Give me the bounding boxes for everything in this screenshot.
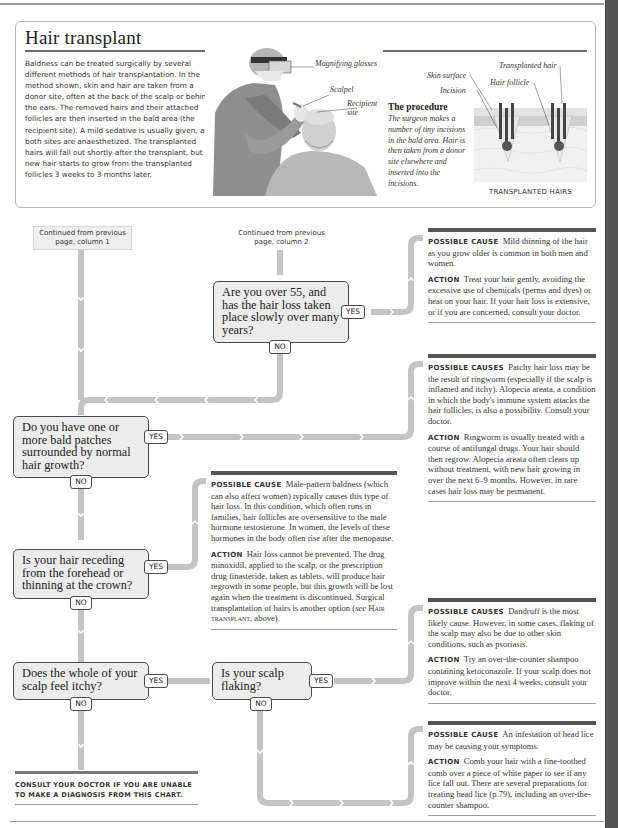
no-tag: NO <box>70 697 92 711</box>
yes-tag: YES <box>341 305 365 319</box>
continued-from-column-2: Continued from previous page, column 2 <box>232 226 331 250</box>
yes-tag: YES <box>144 430 168 444</box>
action-label: Action <box>428 758 460 766</box>
action-label: Action <box>428 434 460 442</box>
answer-patchy-loss: Possible causes Patchy hair loss may be … <box>428 354 596 502</box>
page-top-rule <box>0 3 604 5</box>
page-side-tab <box>605 0 618 828</box>
yes-tag: YES <box>309 674 333 688</box>
consult-text: Consult your doctor if you are unable to… <box>15 780 198 800</box>
page-bottom-rule <box>10 821 604 822</box>
answer-head-lice: Possible cause An infestation of head li… <box>428 721 596 816</box>
question-scalp-flaking: Is your scalp flaking? <box>212 662 312 700</box>
label-scalpel: Scalpel <box>330 85 354 94</box>
action-label: Action <box>428 276 460 284</box>
action-label: Action <box>428 656 460 664</box>
cause-label: Possible causes <box>428 364 504 372</box>
question-itchy-scalp: Does the whole of your scalp feel itchy? <box>13 662 149 700</box>
see-reference: see <box>355 603 366 613</box>
answer-mild-thinning: Possible cause Mild thinning of the hair… <box>428 228 596 323</box>
cause-label: Possible causes <box>428 608 504 616</box>
procedure-title: The procedure <box>388 102 448 112</box>
label-recipient-site: Recipient site <box>347 99 385 117</box>
cause-label: Possible cause <box>211 481 282 489</box>
yes-tag: YES <box>144 560 168 574</box>
diagram-caption: TRANSPLANTED HAIRS <box>474 188 587 196</box>
continued-from-column-1: Continued from previous page, column 1 <box>33 226 132 250</box>
hair-transplant-body: Baldness can be treated surgically by se… <box>25 58 215 180</box>
transplanted-hairs-diagram <box>474 100 587 182</box>
consult-doctor-note: Consult your doctor if you are unable to… <box>15 771 198 805</box>
cause-label: Possible cause <box>428 238 499 246</box>
no-tag: NO <box>70 596 92 610</box>
no-tag: NO <box>250 697 272 711</box>
label-skin-surface: Skin surface <box>427 71 466 80</box>
hair-transplant-title: Hair transplant <box>25 27 141 49</box>
no-tag: NO <box>269 340 291 354</box>
question-bald-patches: Do you have one or more bald patches sur… <box>13 416 149 478</box>
label-incision: Incision <box>440 86 466 95</box>
label-magnifying-glasses: Magnifying glasses <box>315 59 377 68</box>
answer-male-pattern-baldness: Possible cause Male-pattern baldness (wh… <box>211 471 397 630</box>
procedure-body: The surgeon makes a number of tiny incis… <box>388 114 470 190</box>
action-text-end: , above). <box>250 613 280 623</box>
answer-dandruff: Possible causes Dandruff is the most lik… <box>428 598 596 704</box>
label-transplanted-hair: Transplanted hair <box>499 61 557 70</box>
no-tag: NO <box>70 475 92 489</box>
cause-label: Possible cause <box>428 731 499 739</box>
action-label: Action <box>211 551 243 559</box>
label-hair-follicle: Hair follicle <box>490 78 529 87</box>
question-receding: Is your hair receding from the forehead … <box>13 549 149 599</box>
question-over-55: Are you over 55, and has the hair loss t… <box>213 281 349 343</box>
yes-tag: YES <box>144 674 168 688</box>
